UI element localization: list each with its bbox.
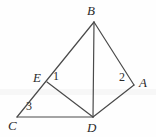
angle-3: 3 [26,100,32,112]
segment-ed [47,82,93,117]
segment-ad [93,85,134,117]
segment-ba [94,22,134,85]
segment-bd [93,22,94,117]
vertex-label-b: B [87,4,95,17]
vertex-label-d: D [87,121,96,134]
vertex-label-e: E [33,71,41,84]
angle-2: 2 [119,71,125,83]
figure-canvas [0,0,156,137]
angle-1: 1 [53,70,59,82]
geometry-figure: BEACD 123 [0,0,156,137]
vertex-label-c: C [8,119,17,132]
vertex-label-a: A [139,76,147,89]
